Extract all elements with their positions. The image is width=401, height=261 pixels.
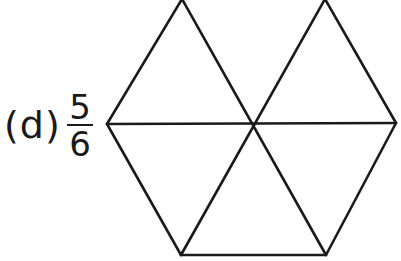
edge-bottom-right-to-right: [326, 123, 396, 255]
edge-top-left-to-left: [107, 0, 182, 124]
hexagon-figure: [0, 0, 401, 261]
edge-left-to-bottom-left: [107, 124, 181, 255]
edge-right-to-top-right: [325, 0, 396, 123]
